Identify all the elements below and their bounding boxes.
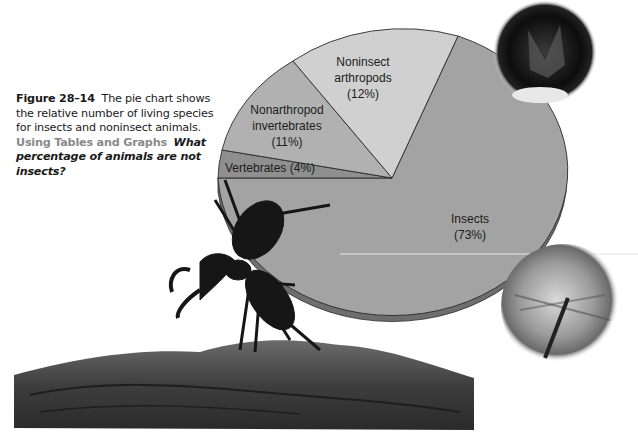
pie-chart-scene: Noninsect arthropods (12%) Nonarthropod … [0,0,638,440]
label-nonarthropod-1: Nonarthropod [250,103,323,117]
label-vertebrates: Vertebrates (4%) [225,161,315,175]
bark-photo [14,340,474,430]
label-insects-2: (73%) [454,228,486,242]
label-nonarthropod-3: (11%) [271,135,302,149]
label-insects-1: Insects [451,212,489,226]
label-noninsect-3: (12%) [347,87,379,101]
label-nonarthropod-2: invertebrates [252,119,321,133]
label-noninsect-2: arthropods [334,71,391,85]
label-noninsect-1: Noninsect [336,55,390,69]
butterfly-photo [493,0,597,104]
dragonfly-photo [501,244,625,368]
